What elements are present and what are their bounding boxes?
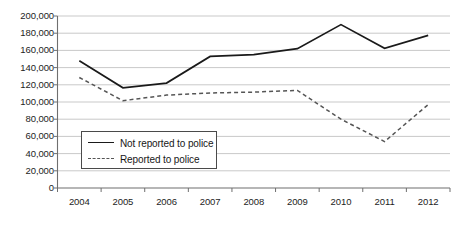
chart-plot-area: [0, 0, 457, 226]
x-axis-tick-label: 2012: [408, 196, 448, 207]
x-axis-tick-label: 2011: [365, 196, 405, 207]
chart-legend: Not reported to police Reported to polic…: [81, 131, 217, 169]
x-axis-ticks: [58, 188, 451, 192]
x-axis-tick-label: 2007: [190, 196, 230, 207]
legend-swatch-solid-line-icon: [88, 138, 114, 148]
x-axis-tick-label: 2005: [103, 196, 143, 207]
x-axis-tick-label: 2006: [147, 196, 187, 207]
line-chart: 200,000180,000160,000140,000120,000100,0…: [0, 0, 457, 226]
legend-label-not-reported: Not reported to police: [120, 138, 213, 149]
legend-item-reported: Reported to police: [88, 151, 199, 167]
legend-swatch-dashed-line-icon: [88, 154, 114, 164]
x-axis-tick-label: 2008: [234, 196, 274, 207]
legend-item-not-reported: Not reported to police: [88, 135, 213, 151]
x-axis-tick-label: 2010: [321, 196, 361, 207]
legend-label-reported: Reported to police: [120, 154, 199, 165]
series-line-not-reported-to-police: [79, 25, 428, 88]
x-axis-tick-label: 2009: [277, 196, 317, 207]
x-axis-tick-label: 2004: [59, 196, 99, 207]
